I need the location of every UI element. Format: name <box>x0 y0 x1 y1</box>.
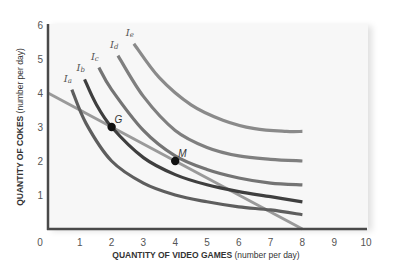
x-tick-2: 2 <box>109 237 115 248</box>
indifference-curve-chart: 012345678910 123456 IaIbIcIdIe GM QUANTI… <box>0 0 397 276</box>
x-tick-3: 3 <box>141 237 147 248</box>
x-tick-6: 6 <box>236 237 242 248</box>
x-axis-title-unit: (number per day) <box>234 250 299 260</box>
x-tick-9: 9 <box>331 237 337 248</box>
y-tick-3: 3 <box>37 122 43 133</box>
x-tick-1: 1 <box>77 237 83 248</box>
x-tick-4: 4 <box>172 237 178 248</box>
x-tick-5: 5 <box>204 237 210 248</box>
y-tick-5: 5 <box>37 54 43 65</box>
x-tick-8: 8 <box>300 237 306 248</box>
y-axis-title-unit: (number per day) <box>15 48 25 113</box>
y-tick-2: 2 <box>37 156 43 167</box>
x-tick-0: 0 <box>37 237 43 248</box>
y-tick-6: 6 <box>37 20 43 31</box>
y-axis-title-main: QUANTITY OF COKES <box>15 115 25 205</box>
x-axis-title-main: QUANTITY OF VIDEO GAMES <box>112 250 232 260</box>
y-tick-1: 1 <box>37 190 43 201</box>
y-tick-4: 4 <box>37 88 43 99</box>
x-axis-title: QUANTITY OF VIDEO GAMES (number per day) <box>112 250 300 260</box>
y-axis-title: QUANTITY OF COKES (number per day) <box>15 48 25 206</box>
y-tick-labels: 123456 <box>37 20 43 201</box>
point-label-m: M <box>178 148 187 159</box>
point-label-g: G <box>115 114 123 125</box>
x-tick-10: 10 <box>360 237 372 248</box>
x-tick-7: 7 <box>268 237 274 248</box>
x-tick-labels: 012345678910 <box>37 237 372 248</box>
